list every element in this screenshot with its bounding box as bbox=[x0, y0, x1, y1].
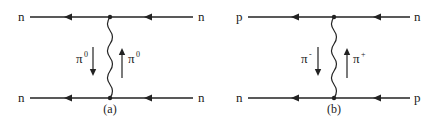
caption-a: (a) bbox=[103, 102, 116, 116]
pion-propagator bbox=[332, 17, 337, 98]
bottom-left-arrow-icon bbox=[64, 95, 72, 102]
label-exchange-up-charge: 0 bbox=[136, 50, 140, 59]
diagram-b: p n n p π - π + (b) bbox=[236, 9, 421, 116]
bottom-right-arrow-icon bbox=[144, 95, 152, 102]
label-exchange-up-charge: + bbox=[361, 50, 366, 59]
bottom-right-arrow-icon bbox=[373, 95, 381, 102]
label-top-left: n bbox=[18, 9, 25, 24]
label-bottom-right: p bbox=[414, 90, 421, 105]
label-bottom-left: n bbox=[18, 90, 25, 105]
label-top-right: n bbox=[414, 9, 421, 24]
pion-propagator bbox=[108, 17, 113, 98]
top-left-arrow-icon bbox=[291, 14, 299, 21]
caption-b: (b) bbox=[327, 102, 341, 116]
label-exchange-up: π bbox=[128, 51, 135, 66]
label-exchange-down-charge: 0 bbox=[84, 50, 88, 59]
label-exchange-down: π bbox=[301, 51, 308, 66]
top-right-arrow-icon bbox=[373, 14, 381, 21]
top-left-arrow-icon bbox=[64, 14, 72, 21]
bottom-left-arrow-icon bbox=[291, 95, 299, 102]
label-exchange-down-charge: - bbox=[309, 50, 312, 59]
label-top-right: n bbox=[198, 9, 205, 24]
label-bottom-left: n bbox=[236, 90, 243, 105]
label-exchange-up: π bbox=[353, 51, 360, 66]
feynman-diagrams-figure: n n n n π 0 π 0 (a) p n n p π - π + (b) bbox=[0, 0, 435, 120]
label-exchange-down: π bbox=[76, 51, 83, 66]
top-right-arrow-icon bbox=[144, 14, 152, 21]
label-top-left: p bbox=[236, 9, 243, 24]
diagram-a: n n n n π 0 π 0 (a) bbox=[18, 9, 205, 116]
label-bottom-right: n bbox=[198, 90, 205, 105]
